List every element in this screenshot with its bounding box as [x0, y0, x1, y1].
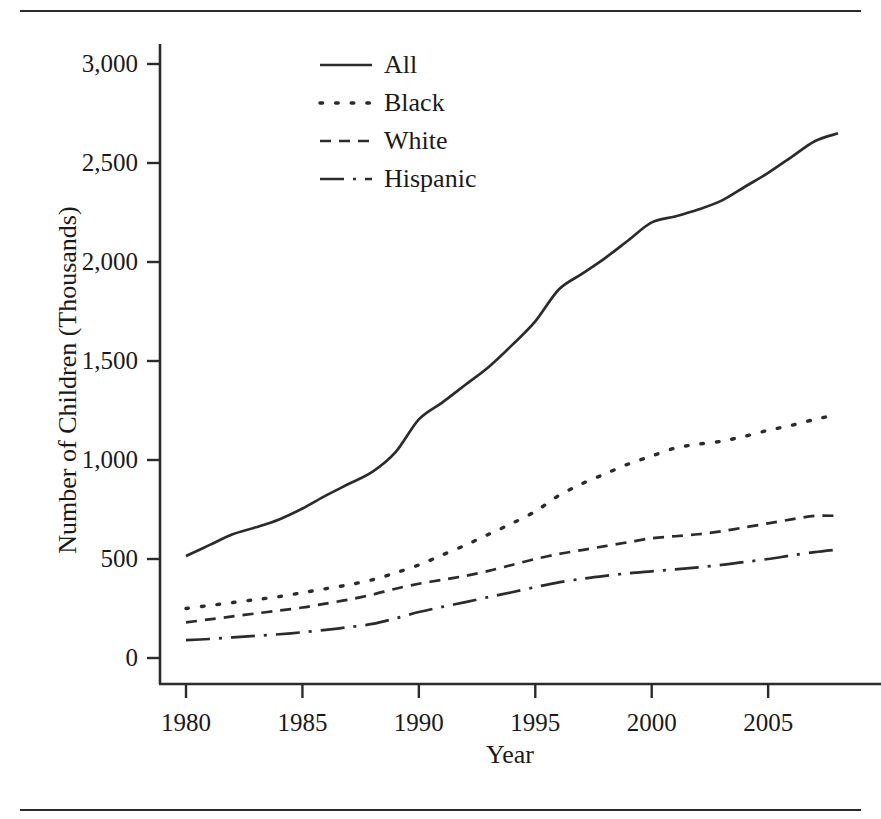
- legend-swatch-dashdot-icon: [318, 172, 374, 186]
- x-tick-label: 1985: [252, 710, 352, 735]
- legend-swatch-dotted-icon: [318, 96, 374, 110]
- legend-item-white[interactable]: White: [318, 122, 548, 160]
- y-tick-label: 500: [101, 546, 139, 571]
- x-tick-label: 2000: [602, 710, 702, 735]
- legend-swatch-solid-icon: [318, 58, 374, 72]
- y-tick-label: 1,500: [82, 348, 138, 373]
- legend-item-black[interactable]: Black: [318, 84, 548, 122]
- y-tick-label: 2,000: [82, 249, 138, 274]
- y-tick-label: 3,000: [82, 51, 138, 76]
- series-line-hispanic: [186, 550, 838, 641]
- chart-legend: AllBlackWhiteHispanic: [318, 46, 548, 198]
- legend-label: White: [384, 128, 448, 154]
- legend-item-hispanic[interactable]: Hispanic: [318, 160, 548, 198]
- series-line-black: [186, 414, 838, 608]
- legend-label: All: [384, 52, 417, 78]
- x-tick-label: 1980: [136, 710, 236, 735]
- legend-label: Black: [384, 90, 445, 116]
- y-tick-label: 0: [126, 645, 139, 670]
- legend-swatch-dashed-icon: [318, 134, 374, 148]
- x-tick-label: 2005: [718, 710, 818, 735]
- x-tick-label: 1995: [485, 710, 585, 735]
- x-axis-title: Year: [160, 740, 860, 770]
- y-tick-label: 1,000: [82, 447, 138, 472]
- legend-item-all[interactable]: All: [318, 46, 548, 84]
- series-line-white: [186, 516, 838, 623]
- y-tick-label: 2,500: [82, 150, 138, 175]
- x-tick-label: 1990: [369, 710, 469, 735]
- figure-root: 05001,0001,5002,0002,5003,000 1980198519…: [0, 0, 881, 819]
- legend-label: Hispanic: [384, 166, 476, 192]
- y-axis-title: Number of Children (Thousands): [53, 165, 83, 595]
